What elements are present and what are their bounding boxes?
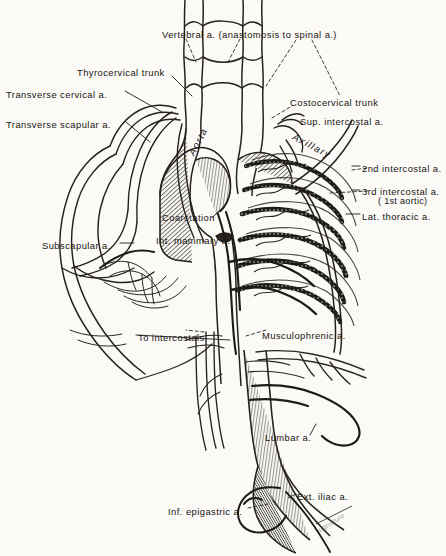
label-external-iliac-artery: Ext. iliac a. [297,491,348,502]
label-lumbar-artery: Lumbar a. [265,432,311,443]
label-2nd-intercostal-artery: 2nd intercostal a. [362,163,442,174]
label-3rd-intercostal-artery-subnote: ( 1st aortic) [378,196,427,207]
label-costocervical-trunk: Costocervical trunk [290,97,378,108]
label-thyrocervical-trunk: Thyrocervical trunk [77,67,165,78]
label-superior-intercostal-artery: Sup. intercostal a. [300,116,384,127]
label-to-intercostals: To intercostals [138,332,205,343]
label-musculophrenic-artery: Musculophrenic a. [262,330,346,341]
label-transverse-scapular-artery: Transverse scapular a. [6,119,111,130]
anatomical-figure: Vertebral a. (anastomosis to spinal a.) … [0,0,446,556]
label-subscapular-artery: Subscapular a. [42,240,111,251]
label-lateral-thoracic-artery: Lat. thoracic a. [362,211,431,222]
label-coarctation: Coarctation [162,212,215,223]
label-transverse-cervical-artery: Transverse cervical a. [6,89,107,100]
anatomy-illustration [0,0,446,556]
label-internal-mammary-artery: Int. mammary a. [156,235,230,246]
label-inferior-epigastric-artery: Inf. epigastric a. [168,506,242,517]
label-vertebral-artery: Vertebral a. (anastomosis to spinal a.) [162,29,337,40]
